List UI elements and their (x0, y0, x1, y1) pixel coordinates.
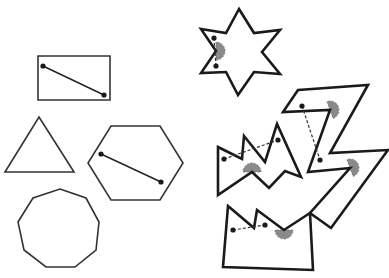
triangle-shape (5, 117, 74, 172)
hexagon-shape (88, 126, 183, 200)
notched-box-exterior-segment (233, 225, 265, 230)
vertex-dot (101, 92, 106, 97)
notched-box-shape (223, 206, 313, 270)
nonagon-shape (18, 189, 99, 267)
rectangle-diagonal (43, 66, 104, 95)
convex-polygons-group (5, 56, 183, 267)
point-dot (213, 63, 218, 68)
vertex-dot (98, 151, 103, 156)
point-dot (211, 35, 216, 40)
hexagon-diagonal (101, 154, 161, 182)
concave-polygons-group (201, 9, 388, 270)
vertex-dot (158, 179, 163, 184)
point-dot (221, 156, 226, 161)
polygon-diagram (0, 0, 389, 278)
zigzag-z-exterior-segment (302, 106, 320, 160)
point-dot (317, 157, 322, 162)
star-shape (201, 9, 280, 95)
m-shape-shape (218, 124, 301, 195)
point-dot (262, 222, 267, 227)
point-dot (230, 227, 235, 232)
point-dot (299, 103, 304, 108)
point-dot (275, 137, 280, 142)
vertex-dot (40, 63, 45, 68)
